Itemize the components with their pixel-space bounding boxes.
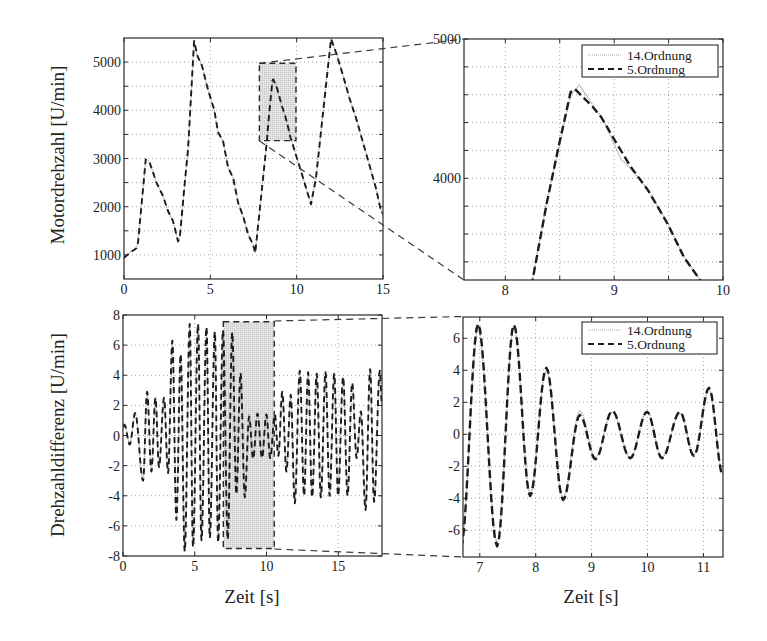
y-tick-label: -8 — [108, 549, 120, 564]
legend-label-14-ordnung: 14.Ordnung — [627, 323, 692, 338]
x-tick-label: 8 — [532, 560, 539, 575]
y-tick-label: -2 — [448, 459, 460, 474]
x-tick-label: 10 — [641, 560, 655, 575]
x-tick-label: 9 — [611, 283, 618, 298]
x-tick-label: 7 — [476, 560, 483, 575]
y-tick-label: -4 — [448, 491, 460, 506]
y-tick-label: 6 — [113, 338, 120, 353]
y-tick-label: 0 — [453, 427, 460, 442]
x-tick-label: 5 — [207, 282, 214, 297]
y-tick-label: 4 — [453, 363, 460, 378]
y-axis-label-drehzahldifferenz: Drehzahldifferenz [U/min] — [47, 333, 68, 537]
x-tick-label: 8 — [502, 283, 509, 298]
x-tick-label: 11 — [697, 560, 710, 575]
subplot-drehzahldifferenz: 051015-8-6-4-202468 — [108, 308, 382, 574]
legend: 14.Ordnung 5.Ordnung — [582, 45, 718, 77]
y-tick-label: 1000 — [93, 248, 121, 263]
y-tick-label: 4000 — [93, 103, 121, 118]
zoom-region-layer — [259, 63, 296, 140]
y-tick-label: 4 — [113, 368, 120, 383]
x-tick-label: 15 — [331, 559, 345, 574]
y-tick-label: 0 — [113, 429, 120, 444]
subplot-drehzahldifferenz-zoom: 7891011-6-4-20246 14.Ordnung 5.Ordnung — [448, 317, 723, 575]
zoom-region-highlight — [259, 63, 296, 140]
legend: 14.Ordnung 5.Ordnung — [582, 322, 717, 354]
y-tick-label: 5000 — [93, 55, 121, 70]
y-tick-label: 3000 — [93, 152, 121, 167]
y-tick-label: 2000 — [93, 200, 121, 215]
x-tick-label: 0 — [120, 559, 127, 574]
y-tick-label: 4000 — [433, 171, 461, 186]
x-tick-label: 5 — [191, 559, 198, 574]
x-tick-label: 10 — [259, 559, 273, 574]
x-tick-label: 0 — [121, 282, 128, 297]
x-tick-label: 9 — [588, 560, 595, 575]
subplot-motordrehzahl: 05101510002000300040005000 — [93, 38, 390, 297]
y-tick-label: 6 — [453, 331, 460, 346]
y-tick-label: 2 — [453, 395, 460, 410]
legend-label-5-ordnung: 5.Ordnung — [627, 337, 685, 352]
y-tick-label: 2 — [113, 398, 120, 413]
y-tick-label: -4 — [108, 489, 120, 504]
x-tick-label: 10 — [716, 283, 730, 298]
x-tick-label: 10 — [290, 282, 304, 297]
x-tick-label: 15 — [376, 282, 390, 297]
x-axis-label-left: Zeit [s] — [224, 586, 279, 607]
legend-label-14-ordnung: 14.Ordnung — [627, 48, 692, 63]
y-tick-label: 8 — [113, 308, 120, 323]
y-axis-label-motordrehzahl: Motordrehzahl [U/min] — [47, 66, 68, 245]
y-tick-label: -2 — [108, 459, 120, 474]
y-tick-label: -6 — [448, 523, 460, 538]
figure: 05101510002000300040005000 891040005000 … — [0, 0, 767, 641]
legend-label-5-ordnung: 5.Ordnung — [627, 62, 685, 77]
y-tick-label: -6 — [108, 519, 120, 534]
x-axis-label-right: Zeit [s] — [563, 586, 618, 607]
